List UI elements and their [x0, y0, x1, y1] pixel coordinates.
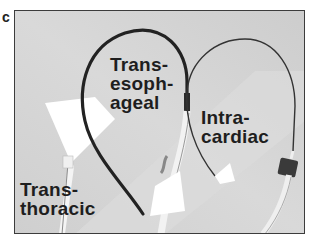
label-transthoracic: Trans- thoracic: [20, 180, 96, 218]
label-transesophageal-line2: esoph-: [110, 74, 173, 93]
label-transesophageal-line3: ageal: [110, 93, 173, 112]
label-intracardiac-line2: cardiac: [201, 127, 269, 146]
label-transthoracic-line1: Trans-: [20, 180, 96, 199]
label-transthoracic-line2: thoracic: [20, 199, 96, 218]
label-transesophageal-line1: Trans-: [110, 55, 173, 74]
label-transesophageal: Trans- esoph- ageal: [110, 55, 173, 112]
label-intracardiac: Intra- cardiac: [201, 108, 269, 146]
label-intracardiac-line1: Intra-: [201, 108, 269, 127]
panel-letter: c: [2, 10, 10, 24]
figure-photo-frame: Trans- esoph- ageal Intra- cardiac Trans…: [14, 10, 305, 234]
